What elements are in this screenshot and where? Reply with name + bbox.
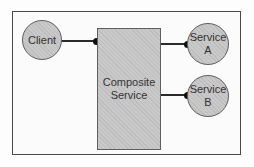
node-service-b-label-line1: Service bbox=[190, 83, 227, 96]
node-composite-service-label-line1: Composite bbox=[103, 76, 156, 89]
node-client-label: Client bbox=[28, 34, 56, 47]
node-composite-service: Composite Service bbox=[97, 28, 161, 150]
node-service-b-label-line2: B bbox=[204, 96, 211, 109]
diagram-canvas: Client Composite Service Service A Servi… bbox=[0, 0, 254, 167]
node-service-b: Service B bbox=[187, 75, 229, 117]
node-service-a-label-line1: Service bbox=[190, 31, 227, 44]
node-composite-service-label-line2: Service bbox=[111, 89, 148, 102]
node-client: Client bbox=[22, 20, 62, 60]
node-service-a-label-line2: A bbox=[204, 44, 211, 57]
edge-client-composite bbox=[60, 40, 97, 42]
node-service-a: Service A bbox=[187, 23, 229, 65]
